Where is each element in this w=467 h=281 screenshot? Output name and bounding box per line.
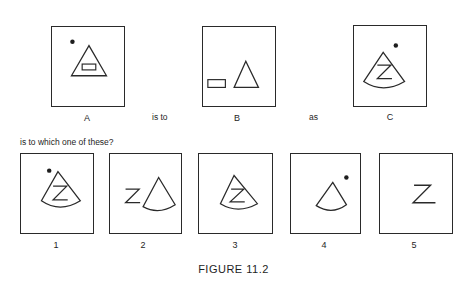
cone-sector-icon	[143, 177, 175, 210]
option-4-label: 4	[314, 240, 334, 250]
letter-z-icon	[126, 189, 141, 203]
option-5-label: 5	[404, 240, 424, 250]
panel-b	[202, 26, 276, 107]
triangle-icon	[234, 61, 258, 87]
letter-z-icon	[230, 189, 245, 202]
panel-b-figure	[203, 27, 275, 106]
option-1[interactable]	[20, 153, 94, 234]
panel-c-label: C	[380, 112, 400, 122]
option-3-label: 3	[225, 240, 245, 250]
option-5[interactable]	[379, 153, 453, 234]
panel-a-figure	[52, 27, 124, 106]
option-2[interactable]	[109, 153, 182, 234]
cone-sector-icon	[316, 182, 346, 210]
letter-z-icon	[377, 65, 392, 79]
panel-c	[353, 25, 427, 107]
connector-is-to: is to	[152, 112, 168, 122]
panel-a	[51, 26, 125, 107]
connector-as: as	[309, 112, 318, 122]
option-4[interactable]	[290, 153, 361, 234]
question-prompt: is to which one of these?	[20, 137, 114, 147]
option-5-figure	[380, 154, 452, 233]
dot-icon	[344, 175, 348, 179]
panel-a-label: A	[77, 113, 97, 123]
triangle-icon	[71, 46, 106, 76]
option-2-figure	[110, 154, 181, 233]
rectangle-icon	[82, 64, 96, 70]
dot-icon	[70, 39, 74, 43]
option-2-label: 2	[133, 240, 153, 250]
panel-c-figure	[354, 26, 426, 106]
option-3-figure	[199, 154, 272, 233]
dot-icon	[394, 43, 398, 47]
cone-sector-icon	[41, 172, 80, 208]
panel-b-label: B	[227, 113, 247, 123]
dot-icon	[47, 168, 51, 172]
cone-sector-icon	[364, 52, 405, 88]
option-3[interactable]	[198, 153, 273, 234]
letter-z-icon	[53, 186, 68, 200]
figure-caption: FIGURE 11.2	[0, 263, 467, 275]
option-1-figure	[21, 154, 93, 233]
cone-sector-icon	[220, 175, 257, 209]
letter-z-icon	[413, 185, 435, 203]
option-4-figure	[291, 154, 360, 233]
rectangle-icon	[208, 80, 226, 88]
option-1-label: 1	[46, 240, 66, 250]
